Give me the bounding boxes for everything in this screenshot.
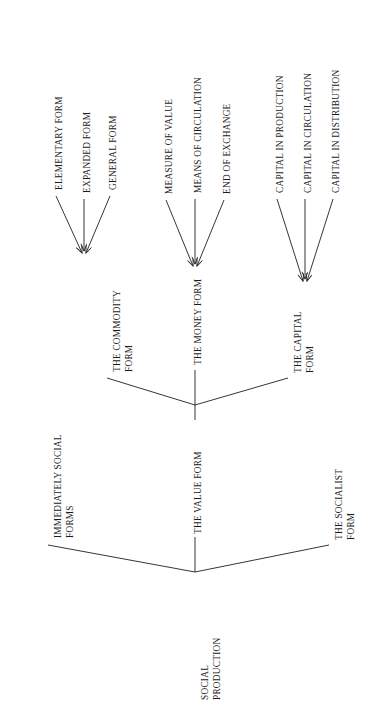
node-general-form: GENERAL FORM — [108, 115, 120, 190]
node-expanded-form: EXPANDED FORM — [82, 112, 94, 193]
node-the-value-form: THE VALUE FORM — [193, 451, 205, 534]
diagram-page: ELEMENTARY FORM EXPANDED FORM GENERAL FO… — [0, 0, 383, 713]
edge-capital-production-to-capital — [277, 199, 303, 281]
edge-value-to-capital-form — [195, 378, 288, 405]
node-end-of-exchange: END OF EXCHANGE — [222, 103, 234, 194]
node-capital-in-production: CAPITAL IN PRODUCTION — [275, 75, 287, 193]
node-social-production: SOCIAL PRODUCTION — [200, 638, 223, 700]
node-the-capital-form: THE CAPITAL FORM — [293, 311, 316, 373]
node-the-socialist-form: THE SOCIALIST FORM — [334, 469, 357, 540]
node-immediately-social-forms: IMMEDIATELY SOCIAL FORMS — [53, 434, 76, 538]
edge-measure-to-money — [166, 200, 193, 266]
node-the-money-form: THE MONEY FORM — [193, 279, 205, 365]
edge-general-to-commodity — [86, 196, 110, 253]
edge-root-to-socialist-form — [195, 545, 329, 572]
edge-elementary-to-commodity — [56, 196, 82, 253]
edge-capital-distribution-to-capital — [307, 199, 333, 281]
node-elementary-form: ELEMENTARY FORM — [54, 96, 66, 190]
node-capital-in-distribution: CAPITAL IN DISTRIBUTION — [331, 70, 343, 193]
node-the-commodity-form: THE COMMODITY FORM — [112, 290, 135, 372]
node-measure-of-value: MEASURE OF VALUE — [164, 99, 176, 194]
edge-end-of-exchange-to-money — [197, 200, 224, 266]
edge-root-to-immediately-social-forms — [48, 545, 195, 572]
edge-value-to-commodity-form — [107, 378, 195, 405]
node-means-of-circulation: MEANS OF CIRCULATION — [193, 77, 205, 193]
node-capital-in-circulation: CAPITAL IN CIRCULATION — [303, 73, 315, 193]
